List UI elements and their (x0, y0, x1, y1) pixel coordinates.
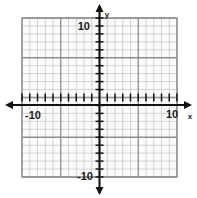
x-axis-name-label: x (188, 112, 193, 121)
x-axis-label-positive-ten: 10 (166, 108, 178, 120)
y-axis-label-positive-ten: 10 (78, 20, 90, 32)
y-axis-name-label: y (105, 10, 110, 19)
y-axis-arrow-down (96, 187, 104, 195)
x-axis-label-negative-ten: -10 (25, 109, 41, 121)
x-axis-arrow-left (5, 101, 13, 109)
coordinate-grid-figure: -10 10 10 -10 x y (0, 0, 197, 198)
y-axis-arrow-up (96, 4, 104, 12)
y-axis-label-negative-ten: -10 (77, 170, 93, 182)
coordinate-plane-svg: -10 10 10 -10 x y (0, 0, 197, 198)
x-axis-arrow-right (184, 101, 192, 109)
